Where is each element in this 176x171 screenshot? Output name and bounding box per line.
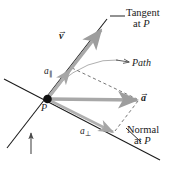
tangent-label: Tangent at P: [126, 7, 160, 29]
normal-label-line1: Normal: [127, 124, 159, 135]
normal-label: Normal at P: [127, 124, 159, 146]
dashed-line-parallel-to-normal: [72, 68, 137, 99]
velocity-vector-label: → v: [59, 31, 63, 42]
normal-label-line2: at P: [127, 135, 159, 146]
velocity-vector-arrow-accent: →: [58, 27, 62, 36]
acceleration-vector-arrow: [49, 99, 137, 100]
a-perpendicular-label: a⊥: [80, 126, 91, 138]
tangent-label-line2: at P: [126, 18, 160, 29]
a-perpendicular-subscript: ⊥: [85, 130, 91, 137]
path-label: Path: [132, 58, 151, 69]
a-parallel-label: a∥: [44, 66, 53, 78]
tangent-label-line1: Tangent: [126, 7, 160, 18]
acceleration-vector-arrow-accent: →: [140, 89, 145, 98]
physics-diagram-acceleration-components: Tangent at P Normal at P Path P → v → a …: [0, 0, 176, 171]
a-parallel-subscript: ∥: [49, 70, 53, 77]
normal-line: [4, 79, 160, 160]
point-p-label: P: [41, 103, 47, 114]
tangent-line: [7, 19, 107, 148]
path-arrow: [116, 60, 129, 62]
acceleration-vector-label: → a: [141, 93, 146, 104]
